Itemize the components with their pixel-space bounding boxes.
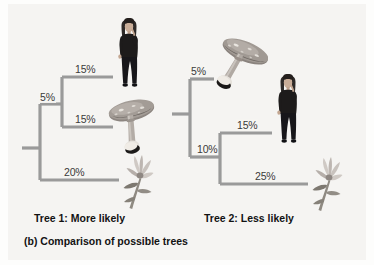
figure-container: 5% 15% 15% 20% 5% 15% 10% 25% bbox=[0, 0, 374, 265]
mushroom-figure bbox=[107, 96, 161, 157]
tree2-label-tip-mushroom-5: 5% bbox=[190, 65, 207, 77]
person-figure bbox=[118, 18, 138, 87]
person-figure bbox=[277, 74, 297, 143]
tree2-label-tip-flower-25: 25% bbox=[254, 170, 276, 182]
tree2-mushroom-image bbox=[206, 36, 268, 98]
tree2-caption: Tree 2: Less likely bbox=[204, 212, 294, 224]
flower-figure bbox=[313, 157, 343, 211]
tree1-flower-image bbox=[118, 151, 162, 213]
tree1-caption: Tree 1: More likely bbox=[34, 212, 125, 224]
flower-figure bbox=[124, 155, 154, 209]
tree2-label-internal-10: 10% bbox=[196, 143, 218, 155]
tree1-label-tip-human-15: 15% bbox=[74, 63, 96, 75]
tree1-person-image bbox=[113, 16, 147, 90]
tree1-mushroom-image bbox=[105, 96, 161, 158]
tree1-label-tip-mushroom-15: 15% bbox=[74, 113, 96, 125]
tree2-person-image bbox=[272, 72, 306, 146]
tree1-label-internal-5: 5% bbox=[39, 91, 56, 103]
figure-caption: (b) Comparison of possible trees bbox=[24, 235, 188, 247]
tree1-label-tip-flower-20: 20% bbox=[63, 166, 85, 178]
tree2-label-tip-human-15: 15% bbox=[236, 119, 258, 131]
mushroom-figure bbox=[207, 36, 268, 98]
tree2-flower-image bbox=[307, 153, 353, 215]
